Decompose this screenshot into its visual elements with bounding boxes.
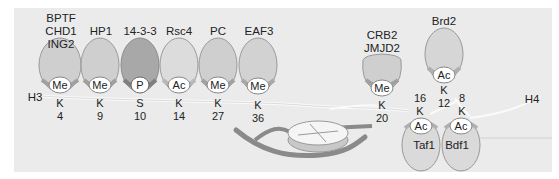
protein-label-taf1: Taf1 (409, 139, 439, 152)
residue-k20: K (369, 99, 395, 111)
residue-k36: K (245, 99, 271, 111)
protein-label-crb2: CRB2 JMJD2 (360, 29, 404, 55)
protein-label-bdf1: Bdf1 (442, 139, 472, 152)
histone-label-h4: H4 (522, 93, 542, 106)
mark-ac-k12: Ac (431, 69, 457, 81)
residue-k27: K (205, 97, 231, 109)
nucleosome (288, 121, 348, 152)
residue-s10: S (127, 97, 153, 109)
diagram-canvas: BPTF CHD1 ING2 HP1 14-3-3 Rsc4 PC EAF3 C… (0, 0, 559, 179)
residue-k16: K (407, 105, 433, 117)
residue-k14: K (166, 97, 192, 109)
mark-ac-k8: Ac (448, 120, 474, 132)
position-14: 14 (166, 110, 192, 122)
position-9: 9 (87, 110, 113, 122)
mark-me-k27: Me (205, 79, 231, 91)
position-4: 4 (47, 110, 73, 122)
position-16: 16 (407, 92, 433, 104)
residue-k8: K (449, 105, 475, 117)
mark-me-k4: Me (47, 79, 73, 91)
mark-p-s10: P (127, 79, 153, 91)
protein-label-14-3-3: 14-3-3 (117, 25, 163, 38)
protein-label-eaf3: EAF3 (240, 25, 278, 38)
histone-label-h3: H3 (25, 91, 45, 104)
protein-label-hp1: HP1 (84, 25, 118, 38)
residue-k9: K (87, 97, 113, 109)
mark-me-k36: Me (245, 80, 271, 92)
position-8: 8 (449, 92, 475, 104)
protein-label-pc: PC (201, 25, 235, 38)
protein-label-bptf: BPTF CHD1 ING2 (44, 12, 78, 51)
mark-me-k9: Me (87, 79, 113, 91)
mark-ac-k16: Ac (408, 120, 434, 132)
mark-ac-k14: Ac (166, 79, 192, 91)
protein-label-brd2: Brd2 (427, 15, 461, 28)
position-20: 20 (369, 112, 395, 124)
position-27: 27 (205, 110, 231, 122)
mark-me-k20: Me (369, 82, 395, 94)
position-36: 36 (245, 112, 271, 124)
position-10: 10 (127, 110, 153, 122)
protein-label-rsc4: Rsc4 (160, 25, 198, 38)
residue-k4: K (47, 97, 73, 109)
